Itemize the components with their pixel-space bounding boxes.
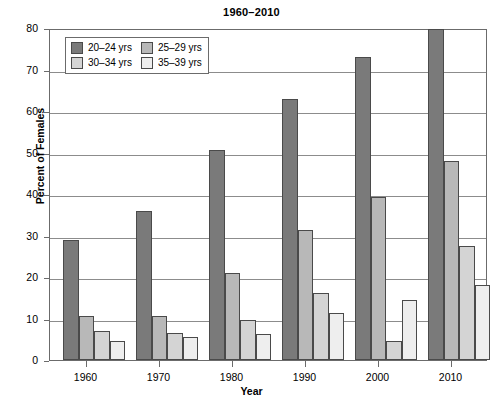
y-tick-label: 70 xyxy=(8,64,38,76)
bar xyxy=(313,293,329,360)
y-tick-label: 80 xyxy=(8,22,38,34)
gridline xyxy=(50,321,486,322)
bar xyxy=(355,57,371,360)
bar xyxy=(298,230,314,360)
legend-label: 20–24 yrs xyxy=(88,43,132,53)
bar xyxy=(240,320,256,360)
bar xyxy=(94,331,110,360)
bar xyxy=(428,29,444,360)
legend-swatch xyxy=(71,42,83,54)
bar xyxy=(63,240,79,360)
legend-label: 25–29 yrs xyxy=(158,43,202,53)
bar xyxy=(402,300,418,360)
y-axis-title: Percent of Females xyxy=(34,86,46,226)
bar xyxy=(167,333,183,360)
x-tick-label: 2000 xyxy=(348,371,408,383)
bar xyxy=(209,150,225,360)
bar xyxy=(371,197,387,360)
legend-swatch xyxy=(141,42,153,54)
gridline xyxy=(50,196,486,197)
y-tick-mark xyxy=(44,361,49,362)
y-tick-mark xyxy=(44,71,49,72)
x-axis-title: Year xyxy=(0,385,503,397)
bar xyxy=(329,313,345,360)
legend-swatch xyxy=(141,57,153,69)
y-tick-label: 0 xyxy=(8,354,38,366)
legend-item: 30–34 yrs xyxy=(71,57,132,69)
x-tick-label: 1970 xyxy=(129,371,189,383)
bar xyxy=(136,211,152,360)
bar xyxy=(444,161,460,360)
legend-item: 35–39 yrs xyxy=(141,57,202,69)
x-tick-label: 2010 xyxy=(421,371,481,383)
bar xyxy=(152,316,168,360)
bar xyxy=(386,341,402,360)
gridline xyxy=(50,279,486,280)
y-tick-mark xyxy=(44,29,49,30)
plot-area: 20–24 yrs25–29 yrs30–34 yrs35–39 yrs xyxy=(49,29,487,361)
y-tick-mark xyxy=(44,278,49,279)
x-tick-mark xyxy=(86,361,87,367)
x-tick-mark xyxy=(378,361,379,367)
chart-legend: 20–24 yrs25–29 yrs30–34 yrs35–39 yrs xyxy=(65,37,209,74)
y-tick-label: 10 xyxy=(8,313,38,325)
y-tick-label: 20 xyxy=(8,271,38,283)
bar-chart: 1960–2010 20–24 yrs25–29 yrs30–34 yrs35–… xyxy=(0,0,503,404)
gridline xyxy=(50,238,486,239)
gridline xyxy=(50,155,486,156)
chart-title: 1960–2010 xyxy=(0,6,503,18)
x-tick-label: 1980 xyxy=(202,371,262,383)
gridline xyxy=(50,113,486,114)
y-tick-mark xyxy=(44,237,49,238)
legend-label: 35–39 yrs xyxy=(158,58,202,68)
bar xyxy=(282,99,298,360)
bar xyxy=(79,316,95,360)
x-tick-label: 1960 xyxy=(56,371,116,383)
x-tick-mark xyxy=(305,361,306,367)
bar xyxy=(459,246,475,360)
legend-item: 25–29 yrs xyxy=(141,42,202,54)
x-tick-mark xyxy=(159,361,160,367)
legend-item: 20–24 yrs xyxy=(71,42,132,54)
x-tick-mark xyxy=(451,361,452,367)
x-tick-mark xyxy=(232,361,233,367)
bar xyxy=(110,341,126,360)
legend-swatch xyxy=(71,57,83,69)
bar xyxy=(475,285,491,360)
bar xyxy=(183,337,199,360)
x-tick-label: 1990 xyxy=(275,371,335,383)
y-tick-mark xyxy=(44,320,49,321)
bar xyxy=(256,334,272,360)
legend-label: 30–34 yrs xyxy=(88,58,132,68)
y-tick-label: 30 xyxy=(8,230,38,242)
bar xyxy=(225,273,241,360)
